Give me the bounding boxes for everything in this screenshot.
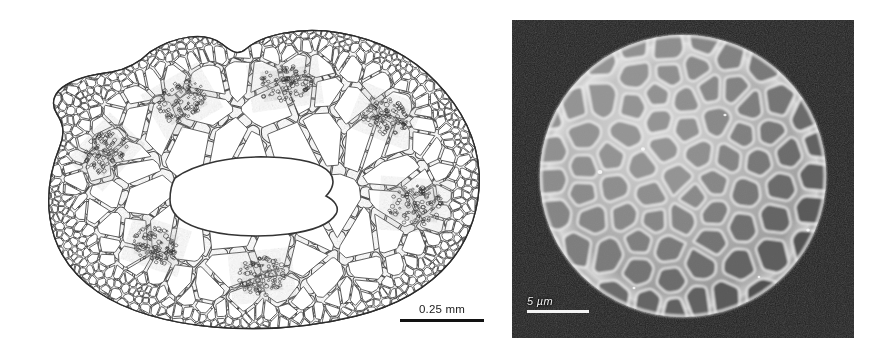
scalebar-right-label: 5 µm — [527, 295, 589, 307]
panel-right-sem-micrograph: 5 µm — [512, 20, 854, 338]
figure-root: 0.25 mm — [0, 0, 887, 360]
scalebar-left-label: 0.25 mm — [400, 303, 484, 316]
panel-left-line-drawing: 0.25 mm — [0, 0, 500, 360]
scalebar-right: 5 µm — [527, 295, 589, 313]
central-lacuna — [170, 157, 337, 236]
sem-sphere-image — [512, 20, 854, 338]
scalebar-left-rule — [400, 319, 484, 322]
sem-grain-overlay — [512, 20, 854, 338]
scalebar-right-rule — [527, 310, 589, 313]
scalebar-left: 0.25 mm — [400, 303, 484, 322]
